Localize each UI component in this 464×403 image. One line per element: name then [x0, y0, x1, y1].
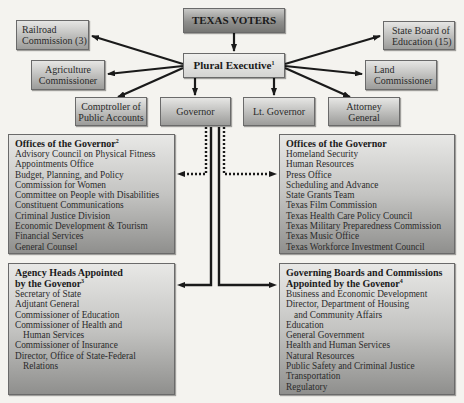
sboe-line1: State Board of [392, 25, 452, 36]
list-item: Committee on People with Disabilities [15, 190, 168, 200]
boards-title-line2: Appointed by the Govenor4 [286, 278, 448, 289]
land-line1: Land [374, 64, 432, 75]
list-item: Criminal Justice Division [15, 211, 168, 221]
footnote-4: 4 [400, 278, 403, 284]
sboe-line2: Education (15) [392, 36, 452, 47]
list-item: Press Office [286, 170, 448, 180]
list-item: Human Resources [286, 159, 448, 169]
list-item: Texas Music Office [286, 231, 448, 241]
governor-label: Governor [176, 106, 214, 117]
agency-heads-title-line1: Agency Heads Appointed [15, 267, 168, 278]
list-item: Business and Economic Development [286, 289, 448, 299]
footnote-3: 3 [81, 278, 84, 284]
railroad-line1: Railroad [22, 24, 87, 35]
comptroller-line2: Public Accounts [78, 112, 143, 123]
offices-governor-left-box: Offices of the Governor2 Advisory Counci… [8, 134, 175, 254]
agriculture-line2: Commissioner [39, 75, 97, 86]
agency-heads-box: Agency Heads Appointed by the Govenor3 S… [8, 263, 175, 395]
land-line2: Commissioner [374, 75, 432, 86]
governor-box: Governor [160, 97, 231, 126]
list-item: Human Services [15, 330, 168, 340]
offices-left-title: Offices of the Governor2 [15, 138, 168, 149]
offices-right-title: Offices of the Governor [286, 138, 448, 149]
offices-governor-right-box: Offices of the Governor Homeland Securit… [279, 134, 455, 254]
list-item: Adjutant General [15, 299, 168, 309]
list-item: Director, Department of Housing [286, 299, 448, 309]
attorney-line1: Attorney [346, 101, 382, 112]
list-item: Commissioner of Insurance [15, 340, 168, 350]
railroad-commission-box: RailroadCommission (3) [16, 20, 89, 50]
list-item: Transportation [286, 371, 448, 381]
list-item: Relations [15, 361, 168, 371]
list-item: Health and Human Services [286, 340, 448, 350]
list-item: Budget, Planning, and Policy [15, 170, 168, 180]
land-commissioner-box: LandCommissioner [365, 60, 437, 90]
footnote-2: 2 [116, 138, 119, 144]
attorney-line2: General [346, 112, 382, 123]
list-item: Texas Health Care Policy Council [286, 211, 448, 221]
comptroller-box: Comptroller ofPublic Accounts [75, 97, 147, 126]
agency-heads-title-line2: by the Govenor3 [15, 278, 168, 289]
list-item: Director, Office of State-Federal [15, 351, 168, 361]
list-item: Education [286, 320, 448, 330]
list-item: Advisory Council on Physical Fitness [15, 149, 168, 159]
lt-governor-box: Lt. Governor [243, 97, 315, 126]
list-item: Commissioner of Health and [15, 320, 168, 330]
plural-executive-box: Plural Executive1 [183, 53, 285, 78]
attorney-general-box: AttorneyGeneral [328, 97, 400, 126]
list-item: and Community Affairs [286, 310, 448, 320]
list-item: General Counsel [15, 242, 168, 252]
list-item: Financial Services [15, 231, 168, 241]
list-item: Economic Development & Tourism [15, 221, 168, 231]
texas-voters-label: TEXAS VOTERS [192, 15, 276, 26]
agriculture-commissioner-box: AgricultureCommissioner [31, 60, 105, 90]
list-item: State Grants Team [286, 190, 448, 200]
list-item: Appointments Office [15, 159, 168, 169]
list-item: Homeland Security [286, 149, 448, 159]
plural-executive-label: Plural Executive1 [194, 60, 275, 71]
list-item: General Government [286, 330, 448, 340]
lt-governor-label: Lt. Governor [253, 106, 305, 117]
list-item: Scheduling and Advance [286, 180, 448, 190]
texas-voters-box: TEXAS VOTERS [183, 8, 285, 33]
state-board-education-box: State Board ofEducation (15) [383, 21, 455, 50]
list-item: Constituent Communications [15, 200, 168, 210]
governing-boards-box: Governing Boards and Commissions Appoint… [279, 263, 455, 395]
list-item: Texas Military Preparedness Commission [286, 221, 448, 231]
comptroller-line1: Comptroller of [78, 101, 143, 112]
footnote-1: 1 [271, 60, 274, 66]
boards-title-line1: Governing Boards and Commissions [286, 267, 448, 278]
list-item: Natural Resources [286, 351, 448, 361]
list-item: Secretary of State [15, 289, 168, 299]
list-item: Public Safety and Criminal Justice [286, 361, 448, 371]
list-item: Regulatory [286, 382, 448, 392]
list-item: Commission for Women [15, 180, 168, 190]
list-item: Texas Film Commission [286, 200, 448, 210]
railroad-line2: Commission (3) [22, 35, 87, 46]
list-item: Texas Workforce Investment Council [286, 242, 448, 252]
agriculture-line1: Agriculture [39, 64, 97, 75]
list-item: Commissioner of Education [15, 310, 168, 320]
